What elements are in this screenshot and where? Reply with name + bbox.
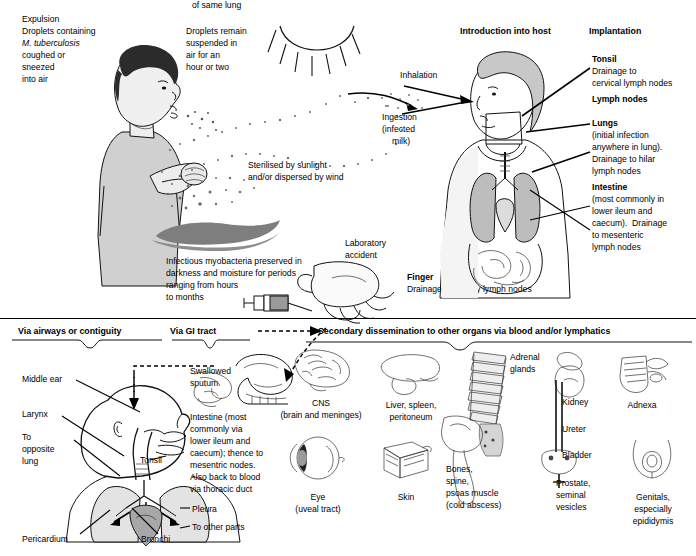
gi-intestine-l4: caecum); thence to <box>190 448 263 458</box>
caption-genitals-2: especially <box>620 504 686 514</box>
adnexa-illustration <box>612 352 672 398</box>
implantation-item-lungs-d3: Drainage to hilar <box>592 154 655 164</box>
ground-moisture-shape <box>148 212 288 252</box>
ingestion-line2: (infected <box>382 124 415 134</box>
sterilised-line1: Sterilised by sunlight <box>248 160 327 170</box>
implantation-item-intestine-d1: (most commonly in <box>592 194 664 204</box>
caption-genitals-1: Genitals, <box>620 492 686 502</box>
introduction-heading: Introduction into host <box>460 26 551 37</box>
expulsion-line5: into air <box>22 74 48 84</box>
preserved-line1: Infectious myobacteria preserved in <box>166 256 302 266</box>
implantation-item-tonsil-d1: Drainage to <box>592 66 636 76</box>
caption-genitals-3: epididymis <box>620 516 686 526</box>
expulsion-line4: sneezed <box>22 62 55 72</box>
section-divider <box>0 318 696 319</box>
caption-liver-1: Liver, spleen, <box>368 400 454 410</box>
laboratory-line1: Laboratory <box>345 238 386 248</box>
caption-adnexa: Adnexa <box>608 400 676 410</box>
caption-adrenal-2: glands <box>510 364 535 374</box>
ingestion-line3: milk) <box>392 136 410 146</box>
gi-intestine-l5: mesentric nodes. <box>190 460 255 470</box>
implantation-item-tonsil-d2: cervical lymph nodes <box>592 78 672 88</box>
caption-eye-1: Eye <box>288 492 348 502</box>
preserved-line4: to months <box>166 292 204 302</box>
caption-bones-3: psoas muscle <box>446 488 499 498</box>
genitals-illustration <box>626 436 676 482</box>
caption-adrenal-1: Adrenal <box>510 352 540 362</box>
implantation-item-lungs-d2: anywhere in lung). <box>592 142 662 152</box>
implantation-item-intestine-d3: caecum). Drainage <box>592 218 667 228</box>
implantation-item-lungs-d1: (initial infection <box>592 130 649 140</box>
expulsion-line3: coughed or <box>22 50 65 60</box>
implantation-item-lungs-label: Lungs <box>592 118 618 128</box>
caption-skin: Skin <box>376 492 436 502</box>
suspended-line2: suspended in <box>186 38 237 48</box>
implantation-heading: Implantation <box>589 26 641 37</box>
caption-prostate-3: vesicles <box>556 502 587 512</box>
preserved-line3: ranging from hours <box>166 280 238 290</box>
gi-intestine-l3: lower ileum and <box>190 436 250 446</box>
gi-intestine-l2: commonly via <box>190 424 243 434</box>
caption-bones-1: Bones, <box>446 464 473 474</box>
implantation-leaders <box>490 60 600 240</box>
sun-icon <box>262 18 372 88</box>
eye-illustration <box>286 434 348 484</box>
implantation-item-intestine-d2: lower ileum and <box>592 206 652 216</box>
gi-intestine-l1: Intestine (most <box>190 412 246 422</box>
implantation-item-tonsil-label: Tonsil <box>592 54 617 64</box>
caption-prostate-1: Prostate, <box>556 478 590 488</box>
caption-eye-2: (uveal tract) <box>278 504 358 514</box>
gi-intestine-l6: Also back to blood <box>190 472 260 482</box>
preserved-line2: darkness and moisture for periods <box>166 268 296 278</box>
caption-cns-2: (brain and meninges) <box>268 410 374 420</box>
expulsion-line1: Droplets containing <box>22 26 96 36</box>
expulsion-heading: Expulsion <box>22 14 59 24</box>
sterilised-line2: and/or dispersed by wind <box>248 172 344 182</box>
suspended-line3: air for an <box>186 50 220 60</box>
caption-bones-4: (cold abscess) <box>446 500 501 510</box>
label-other-parts-1: To other parts <box>192 522 245 532</box>
implantation-item-lymph-label: Lymph nodes <box>592 94 648 104</box>
inhaled-droplets <box>378 88 438 118</box>
suspended-line1: Droplets remain <box>186 26 247 36</box>
implantation-item-lungs-d4: lymph nodes <box>592 166 641 176</box>
caption-bones-2: spine, <box>446 476 469 486</box>
label-other-parts-2: of same lung <box>192 0 241 10</box>
expulsion-pathogen: M. tuberculosis <box>22 38 80 48</box>
inhalation-label: Inhalation <box>400 70 437 80</box>
implantation-item-intestine-d4: to mesenteric <box>592 230 644 240</box>
suspended-line4: hour or two <box>186 62 229 72</box>
skin-illustration <box>378 440 434 484</box>
cns-brain-illustration <box>288 348 354 394</box>
caption-cns-1: CNS <box>278 398 364 408</box>
small-intestine-icon <box>186 368 238 410</box>
ureter-bladder-illustration <box>536 378 586 488</box>
caption-prostate-2: seminal <box>556 490 586 500</box>
implantation-item-intestine-label: Intestine <box>592 182 627 192</box>
liver-spleen-illustration <box>376 352 446 396</box>
implantation-item-intestine-d5: lymph nodes <box>592 242 641 252</box>
pleura-leaders <box>178 498 198 538</box>
gi-intestine-l7: via thoracic duct <box>190 484 252 494</box>
